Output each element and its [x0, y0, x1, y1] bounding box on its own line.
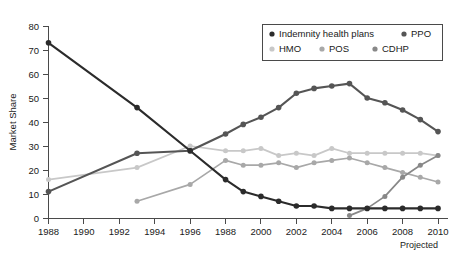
legend-label: POS: [329, 43, 349, 54]
data-point: [435, 206, 441, 212]
data-point: [400, 107, 406, 113]
data-point: [418, 163, 423, 168]
data-point: [382, 165, 387, 170]
y-tick-label: 20: [28, 165, 39, 176]
legend-swatch-icon: [401, 31, 406, 36]
data-point: [312, 153, 317, 158]
data-point: [364, 206, 370, 212]
data-point: [436, 180, 441, 185]
x-tick-label: 1988: [215, 226, 236, 237]
data-point: [276, 153, 281, 158]
data-point: [276, 105, 282, 111]
data-point: [311, 86, 317, 92]
legend-swatch-icon: [269, 31, 274, 36]
x-tick-label: 1996: [180, 226, 201, 237]
x-tick-label: 2006: [357, 226, 378, 237]
series-line: [137, 158, 438, 201]
data-point: [241, 148, 246, 153]
data-point: [329, 83, 335, 89]
data-point: [312, 160, 317, 165]
projected-annotation: Projected: [400, 240, 438, 250]
y-tick-label: 10: [28, 189, 39, 200]
data-point: [134, 105, 140, 111]
data-point: [329, 206, 335, 212]
data-point: [382, 206, 388, 212]
legend-label: Indemnity health plans: [279, 28, 374, 39]
data-point: [418, 151, 423, 156]
data-point: [329, 146, 334, 151]
series-line: [49, 84, 439, 192]
data-point: [400, 170, 405, 175]
data-point: [400, 175, 405, 180]
data-point: [135, 199, 140, 204]
data-point: [329, 158, 334, 163]
data-point: [258, 114, 264, 120]
y-tick-label: 30: [28, 141, 39, 152]
data-point: [347, 81, 353, 87]
series-line: [349, 156, 438, 216]
x-tick-label: 1990: [73, 226, 94, 237]
x-tick-group: 1988199019921994199619882000200220042006…: [38, 219, 449, 238]
data-point: [223, 158, 228, 163]
data-point: [187, 148, 193, 154]
legend-label: CDHP: [382, 43, 409, 54]
data-point: [382, 151, 387, 156]
series-ppo: [46, 81, 441, 195]
y-axis-title: Market Share: [7, 93, 18, 150]
legend-swatch-icon: [319, 46, 324, 51]
data-point: [382, 100, 388, 106]
y-tick-group: 01020304050607080: [28, 21, 48, 224]
market-share-line-chart: 01020304050607080 Market Share 198819901…: [0, 0, 460, 262]
data-point: [347, 206, 353, 212]
legend-item[interactable]: Indemnity health plans: [269, 28, 374, 39]
data-point: [276, 160, 281, 165]
y-tick-label: 80: [28, 21, 39, 32]
data-point: [365, 151, 370, 156]
data-point: [240, 122, 246, 128]
data-point: [418, 117, 424, 123]
chart-canvas: 01020304050607080 Market Share 198819901…: [0, 0, 460, 262]
legend-label: PPO: [411, 28, 431, 39]
x-tick-label: 2010: [427, 226, 448, 237]
data-point: [223, 177, 229, 183]
data-point: [347, 213, 352, 218]
data-point: [258, 146, 263, 151]
x-tick-label: 1988: [38, 226, 59, 237]
series-pos: [135, 156, 441, 204]
x-tick-label: 2000: [250, 226, 271, 237]
y-tick-label: 0: [34, 213, 39, 224]
data-point: [134, 150, 140, 156]
x-tick-label: 2008: [392, 226, 413, 237]
data-point: [364, 95, 370, 101]
data-point: [418, 206, 424, 212]
legend-swatch-icon: [269, 46, 274, 51]
data-point: [347, 151, 352, 156]
data-point: [188, 144, 193, 149]
data-point: [276, 198, 282, 204]
data-point: [223, 148, 228, 153]
data-point: [382, 194, 387, 199]
x-tick-label: 1994: [144, 226, 165, 237]
data-point: [436, 153, 441, 158]
y-tick-label: 40: [28, 117, 39, 128]
data-point: [46, 40, 52, 46]
chart-legend: Indemnity health plansPPOHMOPOSCDHP: [263, 25, 443, 61]
data-point: [435, 129, 441, 135]
data-point: [188, 182, 193, 187]
data-point: [240, 189, 246, 195]
x-tick-label: 1992: [109, 226, 130, 237]
data-point: [294, 90, 300, 96]
data-point: [223, 131, 229, 137]
y-tick-label: 60: [28, 69, 39, 80]
data-point: [46, 189, 52, 195]
x-tick-label: 2002: [286, 226, 307, 237]
x-tick-label: 2004: [321, 226, 342, 237]
data-point: [294, 165, 299, 170]
y-axis-group: 01020304050607080 Market Share: [7, 21, 49, 224]
data-point: [418, 175, 423, 180]
y-tick-label: 70: [28, 45, 39, 56]
data-point: [258, 163, 263, 168]
data-point: [311, 203, 317, 209]
data-point: [400, 151, 405, 156]
data-point: [400, 206, 406, 212]
